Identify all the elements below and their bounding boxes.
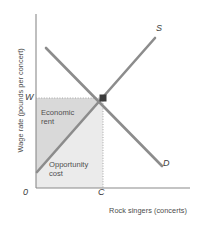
economic-rent-diagram: Wage rate (pounds per concert) Rock sing… bbox=[0, 0, 200, 226]
y-axis-title: Wage rate (pounds per concert) bbox=[17, 25, 26, 175]
supply-curve-label: S bbox=[156, 24, 162, 33]
origin-label: 0 bbox=[23, 188, 28, 197]
economic-rent-label-line2: rent bbox=[41, 117, 54, 126]
demand-curve-label: D bbox=[163, 159, 170, 168]
equilibrium-marker bbox=[100, 95, 107, 102]
economic-rent-label: Economic rent bbox=[41, 108, 74, 127]
economic-rent-label-line1: Economic bbox=[41, 108, 74, 117]
x-axis-title: Rock singers (concerts) bbox=[96, 207, 200, 216]
y-tick-label-wage: W bbox=[25, 93, 34, 102]
x-tick-label-quantity: C bbox=[98, 188, 105, 197]
opportunity-cost-label-line2: cost bbox=[49, 169, 63, 178]
opportunity-cost-label-line1: Opportunity bbox=[49, 160, 88, 169]
opportunity-cost-label: Opportunity cost bbox=[49, 160, 88, 179]
